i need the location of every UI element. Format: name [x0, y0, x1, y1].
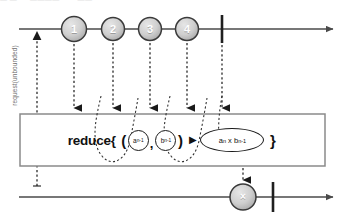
output-marble-result[interactable] [230, 184, 256, 210]
marble-diagram-canvas: — — ··· ———— ·· ·· —— [0, 0, 345, 220]
operator-box-shape [20, 114, 325, 166]
diagram-svg [0, 0, 345, 220]
source-marble-4[interactable] [176, 18, 199, 41]
source-marble-3[interactable] [139, 18, 162, 41]
request-arrow-head [33, 31, 42, 40]
source-to-operator-arrows [74, 43, 222, 108]
source-marble-1[interactable] [62, 17, 87, 42]
request-unbounded-label: request(unbounded) [11, 38, 18, 114]
source-marble-2[interactable] [102, 18, 125, 41]
output-timeline [19, 182, 333, 212]
reduce-box-rect [20, 114, 325, 166]
